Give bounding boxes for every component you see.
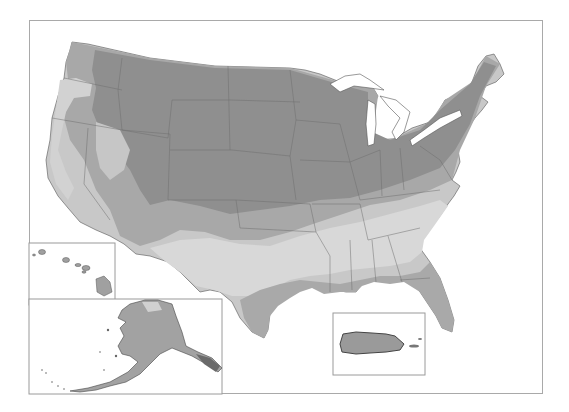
hardiness-zone-map [0,0,569,412]
lake-michigan [366,100,376,146]
culebra-island [418,338,422,340]
vieques-island [409,344,419,347]
